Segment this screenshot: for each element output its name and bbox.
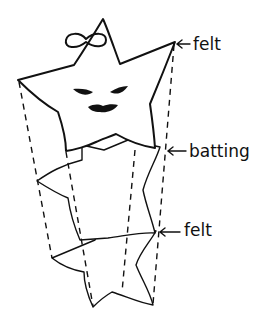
svg-text:batting: batting [189,141,250,161]
svg-text:felt: felt [184,220,212,240]
label-batting: batting [168,141,250,161]
batting-star [37,140,160,240]
label-top-felt: felt [177,34,221,54]
felt-star-layers-diagram: felt batting felt [0,0,276,323]
svg-text:felt: felt [193,34,221,54]
label-bottom-felt: felt [160,220,212,240]
top-felt-star [18,19,175,151]
